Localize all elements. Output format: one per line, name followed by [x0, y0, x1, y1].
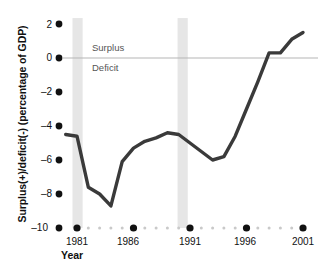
x-minor-tick-dot-1995 [234, 227, 237, 230]
x-tick-label-2001: 2001 [283, 236, 323, 247]
x-major-tick-dot-1996 [243, 224, 250, 231]
x-minor-tick-dot-1999 [279, 227, 282, 230]
y-tick-dot-0 [56, 21, 63, 28]
y-tick-dot-6 [56, 225, 63, 232]
x-tick-label-1981: 1981 [57, 236, 97, 247]
x-tick-label-1996: 1996 [225, 236, 265, 247]
y-tick-label-m10: –10 [22, 222, 48, 233]
x-minor-tick-dot-2000 [290, 227, 293, 230]
x-tick-label-1991: 1991 [170, 236, 210, 247]
x-minor-tick-dot-1990 [177, 227, 180, 230]
chart-figure: Surplus(+)/deficit(-) (percentage of GDP… [0, 0, 327, 272]
y-axis-tick-dots [56, 21, 63, 232]
x-tick-label-1986: 1986 [108, 236, 148, 247]
x-minor-tick-dot-1982 [87, 227, 90, 230]
recession-band-1981 [72, 18, 82, 228]
x-major-tick-dot-1991 [186, 224, 193, 231]
x-major-tick-dot-1986 [130, 224, 137, 231]
x-minor-tick-dot-1992 [200, 227, 203, 230]
x-minor-tick-dot-1998 [268, 227, 271, 230]
x-minor-tick-dot-1997 [256, 227, 259, 230]
x-major-tick-dot-1981 [73, 224, 80, 231]
y-tick-dot-5 [56, 191, 63, 198]
x-minor-tick-dot-1987 [143, 227, 146, 230]
x-minor-tick-dot-1984 [109, 227, 112, 230]
y-tick-label-m6: –6 [26, 154, 52, 165]
recession-band-1990 [178, 18, 188, 228]
x-minor-tick-dot-1993 [211, 227, 214, 230]
shaded-bands [72, 18, 187, 228]
x-minor-tick-dot-1983 [98, 227, 101, 230]
y-tick-dot-2 [56, 89, 63, 96]
annotation-deficit: Deficit [92, 62, 118, 73]
y-tick-dot-1 [56, 55, 63, 62]
y-tick-dot-3 [56, 123, 63, 130]
y-tick-dot-4 [56, 157, 63, 164]
x-minor-tick-dot-1985 [121, 227, 124, 230]
y-tick-label-2: 2 [26, 19, 52, 30]
chart-plot-area [0, 0, 327, 272]
x-minor-tick-dot-1994 [222, 227, 225, 230]
y-tick-label-m2: –2 [26, 86, 52, 97]
x-axis-title: Year [61, 249, 83, 261]
x-minor-tick-dot-1989 [166, 227, 169, 230]
y-tick-label-m8: –8 [26, 188, 52, 199]
y-tick-label-m4: –4 [26, 120, 52, 131]
x-major-tick-dot-2001 [299, 224, 306, 231]
annotation-surplus: Surplus [92, 42, 124, 53]
x-minor-tick-dot-1988 [155, 227, 158, 230]
major-tick-dots [73, 224, 306, 231]
y-tick-label-0: 0 [26, 52, 52, 63]
